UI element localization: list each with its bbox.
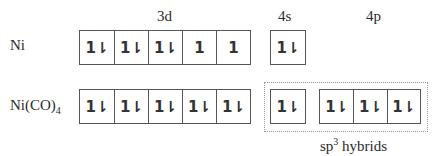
paired-electrons-orbital: 1⇂ <box>148 31 182 64</box>
nico4-4s-orbital: 1⇂ <box>270 89 306 124</box>
paired-electrons-orbital: 1⇂ <box>271 31 305 64</box>
paired-electrons-orbital: 1⇂ <box>80 31 114 64</box>
paired-electrons-orbital: 1⇂ <box>387 90 420 123</box>
paired-electrons-orbital: 1⇂ <box>271 90 305 123</box>
paired-electrons-orbital: 1⇂ <box>148 90 182 123</box>
row-label-nico4: Ni(CO)4 <box>10 97 61 116</box>
single-electron-orbital: 1 <box>216 31 250 64</box>
nico4-4p-orbitals: 1⇂1⇂1⇂ <box>319 89 421 124</box>
paired-electrons-orbital: 1⇂ <box>114 31 148 64</box>
ni-3d-orbitals: 1⇂1⇂1⇂11 <box>79 30 251 65</box>
paired-electrons-orbital: 1⇂ <box>216 90 250 123</box>
header-4s: 4s <box>278 8 291 25</box>
paired-electrons-orbital: 1⇂ <box>353 90 386 123</box>
nico4-3d-orbitals: 1⇂1⇂1⇂1⇂1⇂ <box>79 89 251 124</box>
header-4p: 4p <box>366 8 381 25</box>
paired-electrons-orbital: 1⇂ <box>114 90 148 123</box>
sp3-hybrids-label: sp3 hybrids <box>320 136 387 155</box>
paired-electrons-orbital: 1⇂ <box>80 90 114 123</box>
paired-electrons-orbital: 1⇂ <box>182 90 216 123</box>
header-3d: 3d <box>157 8 172 25</box>
ni-4s-orbital: 1⇂ <box>270 30 306 65</box>
single-electron-orbital: 1 <box>182 31 216 64</box>
paired-electrons-orbital: 1⇂ <box>320 90 353 123</box>
row-label-ni: Ni <box>10 37 25 54</box>
